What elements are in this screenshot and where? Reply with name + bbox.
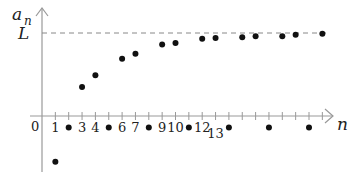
data-point [239,34,245,40]
data-point [66,125,72,131]
x-axis-ticks [55,112,322,120]
data-point [293,32,299,38]
y-axis-label: a [12,4,22,24]
x-tick-label: 13 [207,126,224,141]
data-point [146,125,152,131]
data-point [253,33,259,39]
x-tick-label: 9 [158,120,166,135]
data-point [226,125,232,131]
data-points [52,31,325,165]
data-point [186,125,192,131]
x-tick-label: 6 [118,120,126,135]
x-tick-label: 3 [78,120,86,135]
data-point [266,125,272,131]
data-point [132,51,138,57]
data-point [159,42,165,48]
data-point [119,56,125,62]
data-point [92,72,98,78]
origin-label: 0 [31,119,39,134]
x-tick-label: 7 [131,120,139,135]
data-point [52,159,58,165]
x-axis-label: n [337,114,348,134]
data-point [319,31,325,37]
sequence-convergence-chart: a n L 0 n 134679101213 [0,0,361,179]
data-point [106,125,112,131]
x-tick-label: 10 [167,120,184,135]
x-tick-labels: 134679101213 [51,120,224,141]
x-tick-label: 4 [91,120,99,135]
data-point [306,125,312,131]
data-point [213,35,219,41]
data-point [199,36,205,42]
limit-label: L [17,23,29,43]
data-point [279,33,285,39]
data-point [79,84,85,90]
data-point [173,40,179,46]
x-tick-label: 1 [51,120,59,135]
axis-labels: a n L 0 n [12,4,348,134]
